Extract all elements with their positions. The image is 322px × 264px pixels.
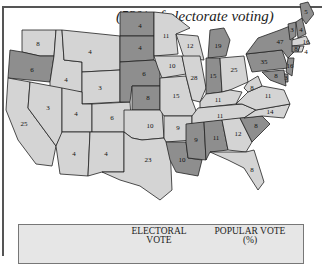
ev-label-north-carolina: 14 [267,108,275,116]
ev-label-georgia: 12 [235,130,243,138]
ev-label-pennsylvania: 35 [261,58,269,66]
ev-label-new-hampshire: 4 [299,26,303,34]
ev-label-rhode-island: 4 [304,48,308,56]
state-south-dakota [120,36,154,62]
ev-label-utah: 4 [74,110,78,118]
ev-label-delaware: 3 [284,74,288,82]
ev-label-louisiana: 10 [179,156,187,164]
ev-label-ohio: 25 [231,66,239,74]
ev-label-vermont: 3 [290,26,294,34]
ev-label-kansas: 8 [146,94,150,102]
popular-vote-header-line2: (%) [195,236,305,245]
ev-label-michigan: 19 [215,42,223,50]
ev-label-new-mexico: 4 [104,150,108,158]
ev-label-massachusetts: 16 [303,38,311,46]
ev-label-arkansas: 9 [176,124,180,132]
legend-header-electoral-vote: ELECTORAL VOTE [131,227,187,245]
ev-label-iowa: 10 [169,62,177,70]
ev-label-west-virginia: 8 [250,84,254,92]
ev-label-maine: 5 [304,8,308,16]
ev-label-texas: 23 [145,156,153,164]
ev-label-california: 25 [21,120,29,128]
ev-label-oklahoma: 10 [147,122,155,130]
ev-label-mississippi: 9 [194,136,198,144]
state-ohio [220,56,248,92]
ev-label-missouri: 15 [173,92,181,100]
ev-label-south-carolina: 8 [254,122,258,130]
ev-label-new-jersey: 16 [287,62,295,70]
ev-label-florida: 8 [250,166,254,174]
ev-label-tennessee: 11 [217,112,224,120]
ev-label-wisconsin: 12 [187,42,195,50]
ev-label-colorado: 6 [110,114,114,122]
ev-label-illinois: 28 [191,74,199,82]
ev-label-nevada: 3 [46,104,50,112]
ev-label-kentucky: 11 [215,96,222,104]
ev-label-wyoming: 3 [98,84,102,92]
ev-label-arizona: 4 [72,150,76,158]
ev-label-washington: 8 [36,40,40,48]
ev-label-montana: 4 [88,48,92,56]
state-florida [210,150,264,190]
ev-label-nebraska: 6 [142,70,146,78]
ev-label-oregon: 6 [30,66,34,74]
ev-label-new-york: 47 [277,38,285,46]
ev-label-maryland: 8 [274,72,278,80]
ev-label-idaho: 4 [64,76,68,84]
legend-header-popular-vote: POPULAR VOTE (%) [195,227,305,245]
ev-label-minnesota: 11 [163,32,170,40]
electoral-vote-header-line2: VOTE [131,236,187,245]
ev-label-indiana: 15 [210,72,218,80]
legend-table: ELECTORAL VOTE POPULAR VOTE (%) [18,224,304,264]
ev-label-north-dakota: 4 [138,22,142,30]
state-oklahoma [124,110,164,140]
ev-label-alabama: 11 [213,134,220,142]
ev-label-south-dakota: 4 [138,44,142,52]
state-north-dakota [120,12,154,36]
ev-label-connecticut: 8 [294,45,298,53]
ev-label-virginia: 11 [265,92,272,100]
